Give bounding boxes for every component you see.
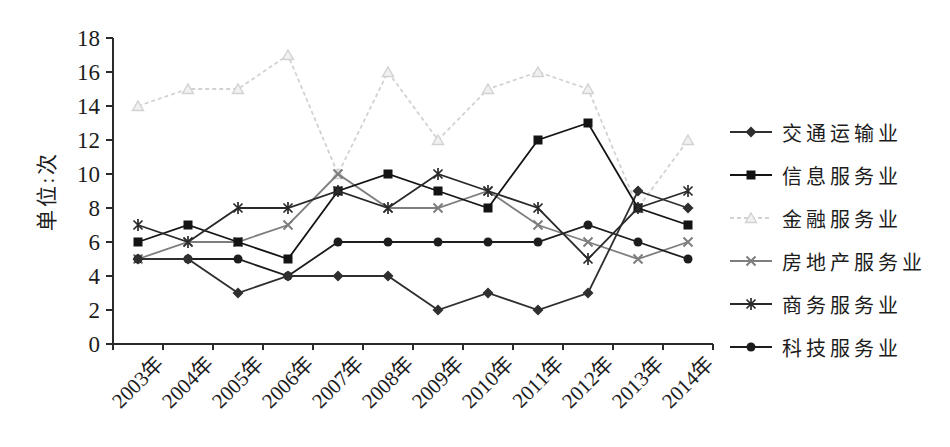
triangle-marker-icon	[483, 84, 494, 94]
y-tick-label: 12	[77, 128, 100, 153]
circle-marker-icon	[584, 221, 593, 230]
diamond-marker-icon	[383, 271, 394, 282]
square-marker-icon	[134, 238, 143, 247]
triangle-marker-icon	[133, 101, 144, 111]
circle-marker-icon	[534, 238, 543, 247]
diamond-marker-icon	[728, 123, 774, 141]
x-tick-label: 2012年	[557, 352, 619, 414]
diamond-marker-icon	[633, 186, 644, 197]
y-tick-label: 16	[77, 60, 100, 85]
asterisk-marker-icon	[484, 185, 493, 197]
x-tick-label: 2007年	[307, 352, 369, 414]
y-tick-label: 4	[89, 264, 101, 289]
x-tick-label: 2004年	[157, 352, 219, 414]
square-marker-icon	[534, 136, 543, 145]
series-line-financial-services	[138, 55, 688, 208]
triangle-marker-icon	[383, 67, 394, 77]
x-tick-label: 2006年	[257, 352, 319, 414]
x-tick-label: 2008年	[357, 352, 419, 414]
legend-item-business-services: 商务服务业	[728, 288, 926, 320]
legend-label: 信息服务业	[782, 161, 902, 190]
asterisk-marker-icon	[584, 253, 593, 265]
square-marker-icon	[184, 221, 193, 230]
x-marker-icon	[534, 221, 543, 230]
diamond-marker-icon	[683, 203, 694, 214]
y-tick-label: 2	[89, 298, 101, 323]
x-tick-label: 2005年	[207, 352, 269, 414]
x-tick-label: 2010年	[457, 352, 519, 414]
legend-label: 房地产服务业	[782, 247, 926, 276]
legend-label: 科技服务业	[782, 333, 902, 362]
diamond-marker-icon	[583, 288, 594, 299]
triangle-marker-icon	[583, 84, 594, 94]
x-marker-icon	[728, 252, 774, 270]
diamond-marker-icon	[533, 305, 544, 316]
circle-marker-icon	[728, 338, 774, 356]
x-tick-label: 2009年	[407, 352, 469, 414]
series-line-technology-services	[138, 225, 688, 276]
square-marker-icon	[747, 171, 756, 180]
square-marker-icon	[728, 166, 774, 184]
triangle-marker-icon	[283, 50, 294, 60]
x-marker-icon	[684, 238, 693, 247]
x-marker-icon	[284, 221, 293, 230]
y-tick-label: 10	[77, 162, 100, 187]
legend-item-financial-services: 金融服务业	[728, 202, 926, 234]
diamond-marker-icon	[333, 271, 344, 282]
y-tick-label: 0	[89, 332, 101, 357]
legend-item-real-estate-services: 房地产服务业	[728, 245, 926, 277]
asterisk-marker-icon	[728, 295, 774, 313]
diamond-marker-icon	[233, 288, 244, 299]
y-tick-label: 18	[77, 26, 100, 51]
square-marker-icon	[584, 119, 593, 128]
circle-marker-icon	[484, 238, 493, 247]
legend: 交通运输业 信息服务业 金融服务业 房地产服务业 商务服务业 科技服务业	[728, 116, 926, 363]
circle-marker-icon	[634, 238, 643, 247]
asterisk-marker-icon	[134, 219, 143, 231]
x-tick-label: 2003年	[107, 352, 169, 414]
square-marker-icon	[684, 221, 693, 230]
y-tick-label: 8	[89, 196, 101, 221]
legend-item-technology-services: 科技服务业	[728, 331, 926, 363]
diamond-marker-icon	[183, 254, 194, 265]
x-tick-label: 2013年	[607, 352, 669, 414]
asterisk-marker-icon	[534, 202, 543, 214]
chart-figure: 单位:次 0246810121416182003年2004年2005年2006年…	[0, 0, 950, 447]
diamond-marker-icon	[283, 271, 294, 282]
series-financial-services	[133, 50, 694, 213]
asterisk-marker-icon	[434, 168, 443, 180]
square-marker-icon	[234, 238, 243, 247]
square-marker-icon	[284, 255, 293, 264]
legend-item-transportation: 交通运输业	[728, 116, 926, 148]
triangle-marker-icon	[683, 135, 694, 145]
square-marker-icon	[484, 204, 493, 213]
circle-marker-icon	[334, 238, 343, 247]
circle-marker-icon	[747, 343, 756, 352]
asterisk-marker-icon	[684, 185, 693, 197]
x-tick-label: 2011年	[508, 352, 569, 413]
series-transportation	[133, 186, 694, 316]
y-tick-label: 6	[89, 230, 101, 255]
legend-item-information-services: 信息服务业	[728, 159, 926, 191]
diamond-marker-icon	[746, 127, 757, 138]
circle-marker-icon	[384, 238, 393, 247]
square-marker-icon	[384, 170, 393, 179]
series-line-business-services	[138, 174, 688, 259]
circle-marker-icon	[684, 255, 693, 264]
triangle-marker-icon	[533, 67, 544, 77]
diamond-marker-icon	[483, 288, 494, 299]
circle-marker-icon	[234, 255, 243, 264]
triangle-marker-icon	[728, 209, 774, 227]
y-tick-label: 14	[77, 94, 101, 119]
legend-label: 商务服务业	[782, 290, 902, 319]
x-marker-icon	[584, 238, 593, 247]
diamond-marker-icon	[433, 305, 444, 316]
square-marker-icon	[434, 187, 443, 196]
series-line-real-estate-services	[138, 174, 688, 259]
triangle-marker-icon	[433, 135, 444, 145]
x-marker-icon	[634, 255, 643, 264]
x-tick-label: 2014年	[657, 352, 719, 414]
legend-label: 交通运输业	[782, 118, 902, 147]
legend-label: 金融服务业	[782, 204, 902, 233]
circle-marker-icon	[434, 238, 443, 247]
